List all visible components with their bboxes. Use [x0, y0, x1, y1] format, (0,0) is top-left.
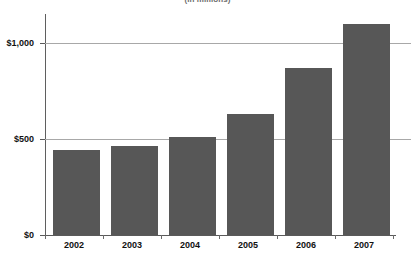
- bar-2004[interactable]: [169, 137, 216, 235]
- x-tick-0: [45, 235, 46, 239]
- x-axis-label-2005: 2005: [219, 241, 277, 250]
- x-tick-1: [103, 235, 104, 239]
- bar-2003[interactable]: [111, 146, 158, 235]
- x-axis-label-2003: 2003: [103, 241, 161, 250]
- bar-2002[interactable]: [53, 150, 100, 235]
- gridline-baseline-0: [45, 235, 396, 236]
- x-tick-6: [393, 235, 394, 239]
- x-axis-label-2006: 2006: [277, 241, 335, 250]
- x-tick-4: [277, 235, 278, 239]
- x-tick-3: [219, 235, 220, 239]
- x-tick-2: [161, 235, 162, 239]
- x-axis-label-2004: 2004: [161, 241, 219, 250]
- bar-2005[interactable]: [227, 114, 274, 235]
- plot-area: [45, 14, 411, 235]
- chart-title: (in millions): [0, 0, 415, 4]
- bar-2006[interactable]: [285, 68, 332, 235]
- x-tick-5: [335, 235, 336, 239]
- y-axis-label-1000: $1,000: [6, 39, 34, 48]
- x-axis-label-2002: 2002: [45, 241, 103, 250]
- bar-2007[interactable]: [343, 24, 390, 235]
- bar-chart: (in millions) $1,000 $500 $0 2002 2003 2…: [0, 0, 415, 258]
- y-axis-label-500: $500: [14, 135, 34, 144]
- y-axis-label-0: $0: [24, 231, 34, 240]
- x-axis-label-2007: 2007: [335, 241, 393, 250]
